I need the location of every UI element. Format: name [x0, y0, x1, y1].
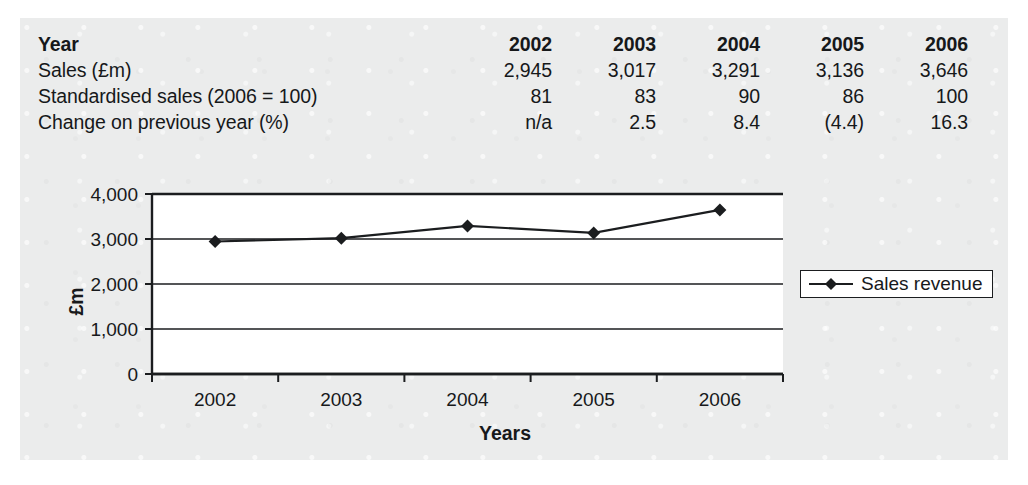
table-cell: (4.4) [756, 110, 864, 134]
x-axis-tick-label: 2004 [405, 390, 531, 409]
y-axis-title: £m [65, 282, 88, 322]
chart-legend: Sales revenue [800, 270, 993, 298]
y-axis-tick-label: 2,000 [48, 275, 138, 294]
data-point-marker [713, 203, 726, 216]
table-cell: 2003 [548, 32, 656, 56]
table-row: Change on previous year (%) n/a 2.5 8.4 … [38, 110, 988, 136]
y-axis-tick-label: 3,000 [48, 230, 138, 249]
table-cell: 2005 [756, 32, 864, 56]
chart-canvas [20, 168, 1008, 460]
table-cell: 2,945 [444, 58, 552, 82]
table-row: Standardised sales (2006 = 100) 81 83 90… [38, 84, 988, 110]
table-cell: 2006 [860, 32, 968, 56]
x-axis-tick-label: 2002 [152, 390, 278, 409]
y-axis-tick-label: 1,000 [48, 320, 138, 339]
x-axis-tick-label: 2003 [278, 390, 404, 409]
x-axis-title: Years [405, 422, 605, 445]
data-point-marker [587, 226, 600, 239]
table-cell: 90 [652, 84, 760, 108]
data-point-marker [461, 219, 474, 232]
page-root: Year 2002 2003 2004 2005 2006 Sales (£m)… [0, 0, 1028, 485]
table-cell: 16.3 [860, 110, 968, 134]
series-markers-sales-revenue [209, 203, 727, 248]
legend-label: Sales revenue [861, 273, 982, 295]
y-axis-tick-label: 4,000 [48, 185, 138, 204]
table-row: Sales (£m) 2,945 3,017 3,291 3,136 3,646 [38, 58, 988, 84]
table-cell: 3,136 [756, 58, 864, 82]
table-cell: 2002 [444, 32, 552, 56]
table-cell: 100 [860, 84, 968, 108]
table-cell: 81 [444, 84, 552, 108]
table-cell: 2004 [652, 32, 760, 56]
table-row: Year 2002 2003 2004 2005 2006 [38, 32, 988, 58]
data-point-marker [209, 235, 222, 248]
table-cell: 8.4 [652, 110, 760, 134]
row-label: Sales (£m) [38, 58, 131, 82]
legend-marker-icon [809, 276, 853, 292]
x-axis-tick-label: 2006 [657, 390, 783, 409]
table-cell: 3,646 [860, 58, 968, 82]
line-chart: 01,0002,0003,0004,000 200220032004200520… [20, 168, 1008, 460]
table-cell: 3,291 [652, 58, 760, 82]
row-label: Standardised sales (2006 = 100) [38, 84, 317, 108]
x-axis-ticks [152, 374, 783, 382]
row-label: Year [38, 32, 79, 56]
table-cell: 83 [548, 84, 656, 108]
table-cell: 2.5 [548, 110, 656, 134]
table-cell: n/a [444, 110, 552, 134]
figure-panel: Year 2002 2003 2004 2005 2006 Sales (£m)… [20, 18, 1008, 460]
table-cell: 86 [756, 84, 864, 108]
y-axis-tick-label: 0 [48, 365, 138, 384]
row-label: Change on previous year (%) [38, 110, 289, 134]
x-axis-tick-label: 2005 [531, 390, 657, 409]
data-point-marker [335, 232, 348, 245]
data-table: Year 2002 2003 2004 2005 2006 Sales (£m)… [38, 32, 988, 136]
table-cell: 3,017 [548, 58, 656, 82]
